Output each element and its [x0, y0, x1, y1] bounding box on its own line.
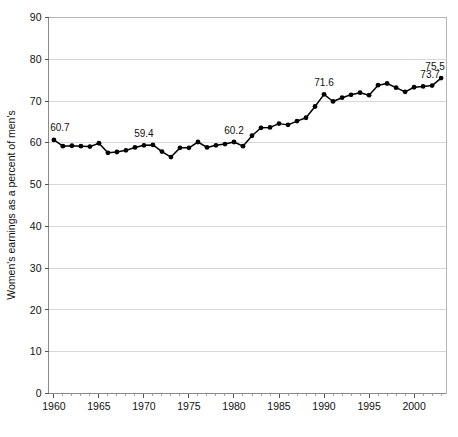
y-tick-label: 0 — [36, 387, 42, 399]
data-point-label: 59.4 — [134, 128, 154, 139]
x-tick-label: 1960 — [42, 400, 66, 412]
data-point-marker — [259, 125, 264, 130]
data-point-marker — [367, 93, 372, 98]
x-tick-label: 1980 — [222, 400, 246, 412]
data-point-marker — [412, 85, 417, 90]
data-point-marker — [187, 145, 192, 150]
x-tick-label: 1990 — [312, 400, 336, 412]
data-point-marker — [340, 95, 345, 100]
y-tick-label: 50 — [30, 178, 42, 190]
data-point-marker — [277, 121, 282, 126]
x-tick-label: 1985 — [267, 400, 291, 412]
data-point-marker — [358, 90, 363, 95]
chart-container: 0102030405060708090 19601965197019751980… — [0, 0, 458, 437]
data-point-marker — [286, 122, 291, 127]
data-point-marker — [295, 119, 300, 124]
x-tick-label: 1970 — [132, 400, 156, 412]
data-point-marker — [250, 133, 255, 138]
data-point-marker — [232, 140, 237, 145]
data-point-marker — [331, 99, 336, 104]
y-tick-label: 70 — [30, 95, 42, 107]
data-point-marker — [349, 92, 354, 97]
line-chart: 0102030405060708090 19601965197019751980… — [0, 0, 458, 437]
data-point-marker — [421, 84, 426, 89]
chart-background — [0, 0, 458, 437]
data-point-marker — [241, 144, 246, 149]
y-tick-label: 20 — [30, 304, 42, 316]
data-point-marker — [223, 142, 228, 147]
y-tick-label: 40 — [30, 220, 42, 232]
data-point-marker — [70, 143, 75, 148]
x-axis-tick-labels: 196019651970197519801985199019952000 — [42, 400, 426, 412]
data-point-marker — [376, 83, 381, 88]
x-tick-label: 2000 — [402, 400, 426, 412]
data-point-marker — [142, 143, 147, 148]
data-point-marker — [106, 150, 111, 155]
x-tick-label: 1975 — [177, 400, 201, 412]
data-point-marker — [133, 145, 138, 150]
x-tick-label: 1965 — [87, 400, 111, 412]
data-point-label: 60.2 — [224, 125, 244, 136]
data-point-label: 71.6 — [314, 77, 334, 88]
y-tick-label: 80 — [30, 53, 42, 65]
data-point-marker — [268, 125, 273, 130]
data-point-marker — [178, 145, 183, 150]
data-point-marker — [79, 144, 84, 149]
x-tick-label: 1995 — [357, 400, 381, 412]
y-tick-label: 30 — [30, 262, 42, 274]
y-axis-title: Women's earnings as a percent of men's — [5, 110, 17, 299]
data-point-marker — [160, 149, 165, 154]
data-point-marker — [313, 104, 318, 109]
y-tick-label: 60 — [30, 136, 42, 148]
data-point-marker — [214, 143, 219, 148]
data-point-marker — [322, 92, 327, 97]
data-point-marker — [115, 150, 120, 155]
data-point-marker — [88, 144, 93, 149]
data-point-marker — [151, 143, 156, 148]
data-point-marker — [394, 85, 399, 90]
y-tick-label: 10 — [30, 345, 42, 357]
data-point-marker — [61, 144, 66, 149]
data-point-marker — [205, 145, 210, 150]
data-point-marker — [52, 138, 57, 143]
data-point-marker — [304, 115, 309, 120]
data-point-label: 60.7 — [50, 122, 70, 133]
data-point-marker — [430, 83, 435, 88]
data-point-marker — [97, 141, 102, 146]
y-tick-label: 90 — [30, 11, 42, 23]
data-point-label: 75.5 — [425, 61, 445, 72]
data-point-marker — [169, 155, 174, 160]
data-point-marker — [124, 148, 129, 153]
data-point-marker — [196, 140, 201, 145]
data-point-marker — [403, 89, 408, 94]
data-point-marker — [385, 81, 390, 86]
